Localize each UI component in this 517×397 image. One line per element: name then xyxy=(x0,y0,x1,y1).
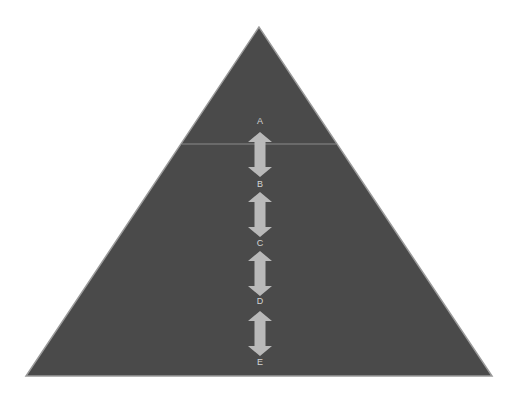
label-b: B xyxy=(250,179,270,189)
pyramid-diagram: A B C D E xyxy=(0,0,517,397)
label-e: E xyxy=(250,357,270,367)
label-c: C xyxy=(250,238,270,248)
label-d: D xyxy=(250,296,270,306)
label-a: A xyxy=(250,116,270,126)
pyramid-canvas xyxy=(0,0,517,397)
